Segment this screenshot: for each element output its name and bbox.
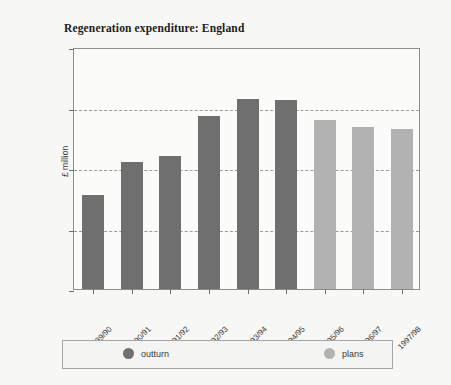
- legend-swatch-outturn: [123, 348, 134, 359]
- x-tick-mark: [286, 289, 287, 294]
- y-tick-mark: [69, 110, 74, 111]
- chart-title: Regeneration expenditure: England: [64, 22, 244, 34]
- x-tick-mark: [209, 289, 210, 294]
- y-axis-title: £ million: [60, 146, 70, 177]
- legend-item-outturn: outturn: [123, 348, 169, 359]
- chart-legend: outturnplans: [62, 340, 393, 369]
- bar-1996-97: [352, 127, 374, 289]
- bar-1989-90: [82, 195, 104, 289]
- y-tick-mark: [69, 170, 74, 171]
- x-tick-mark: [402, 289, 403, 294]
- legend-swatch-plans: [324, 348, 335, 359]
- bar-1992-93: [198, 116, 220, 289]
- bar-1994-95: [275, 100, 297, 289]
- bar-1991-92: [159, 156, 181, 289]
- y-tick-mark: [69, 231, 74, 232]
- x-tick-mark: [132, 289, 133, 294]
- y-tick-mark: [69, 291, 74, 292]
- x-tick-mark: [363, 289, 364, 294]
- x-tick-mark: [93, 289, 94, 294]
- legend-label-plans: plans: [342, 349, 364, 359]
- legend-item-plans: plans: [324, 348, 364, 359]
- bar-1995-96: [314, 120, 336, 289]
- x-tick-mark: [248, 289, 249, 294]
- chart-figure: Regeneration expenditure: England £ mill…: [0, 0, 451, 385]
- plot-area: £ million 05001,0001,5002,000 1989/90199…: [73, 48, 420, 290]
- bar-1993-94: [237, 99, 259, 289]
- bar-1990-91: [121, 162, 143, 289]
- bar-1997-98: [391, 129, 413, 289]
- x-tick-mark: [170, 289, 171, 294]
- legend-label-outturn: outturn: [141, 349, 169, 359]
- y-tick-mark: [69, 49, 74, 50]
- x-tick-mark: [325, 289, 326, 294]
- x-tick-label: 1997/98: [396, 325, 423, 352]
